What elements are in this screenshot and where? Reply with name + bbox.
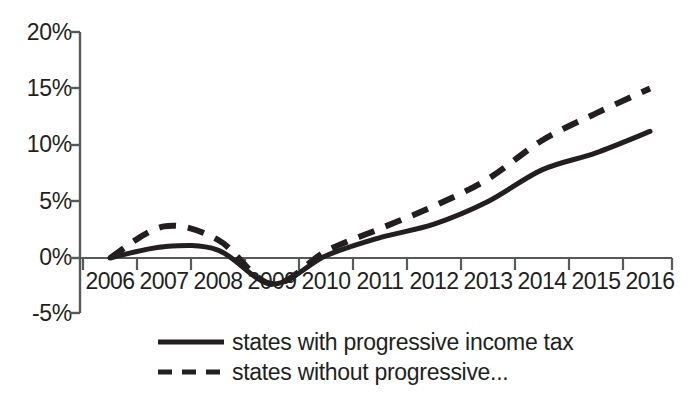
- x-tick-label-2013: 2013: [464, 268, 513, 295]
- series-line-dashed: [110, 89, 650, 285]
- legend-item-dashed: states without progressive...: [158, 357, 678, 387]
- data-series-layer: [110, 89, 650, 285]
- x-tick-label-2010: 2010: [302, 268, 351, 295]
- x-tick-label-2007: 2007: [140, 268, 189, 295]
- line-chart: 20% 15% 10% 5% 0% -5%: [0, 0, 689, 399]
- x-tick-label-2012: 2012: [410, 268, 459, 295]
- x-tick-label-2014: 2014: [518, 268, 567, 295]
- x-tick-label-2008: 2008: [194, 268, 243, 295]
- y-axis-ticks: [70, 32, 80, 313]
- legend-label-without-progressive: states without progressive...: [232, 359, 508, 385]
- x-tick-label-2015: 2015: [572, 268, 621, 295]
- x-tick-label-2016: 2016: [626, 268, 675, 295]
- legend-key-dashed-line-icon: [158, 365, 224, 379]
- x-axis-labels: 2006 2007 2008 2009 2010 2011 2012 2013 …: [80, 268, 658, 298]
- legend-key-solid-line-icon: [158, 335, 224, 349]
- x-tick-label-2011: 2011: [356, 268, 403, 295]
- chart-legend: states with progressive income tax state…: [158, 327, 678, 387]
- x-tick-label-2006: 2006: [86, 268, 135, 295]
- legend-label-with-progressive: states with progressive income tax: [232, 329, 573, 355]
- x-tick-label-2009: 2009: [248, 268, 297, 295]
- legend-item-solid: states with progressive income tax: [158, 327, 678, 357]
